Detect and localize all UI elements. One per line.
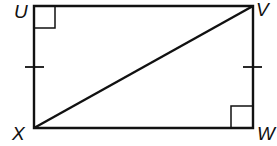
vertex-label-x: X [11, 123, 26, 144]
rectangle-diagram: U V W X [0, 0, 277, 146]
diagonal-xv [34, 6, 253, 128]
right-angle-mark-w [231, 106, 253, 128]
vertex-label-u: U [14, 1, 28, 22]
vertex-label-v: V [256, 0, 271, 20]
vertex-label-w: W [257, 123, 277, 144]
right-angle-mark-u [34, 6, 55, 28]
